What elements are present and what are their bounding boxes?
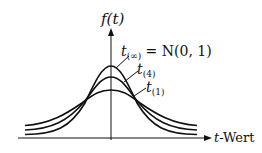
- leader-t1: [134, 88, 146, 96]
- label-t4: t(4): [137, 62, 155, 79]
- leader-t4: [124, 71, 138, 82]
- label-t1: t(1): [146, 80, 164, 97]
- x-axis-label: t-Wert: [214, 131, 254, 144]
- y-axis-label: f(t): [101, 12, 124, 27]
- y-axis-arrow-icon: [108, 28, 114, 36]
- x-axis-arrow-icon: [204, 135, 212, 141]
- label-normal: t(∞) = N(0, 1): [121, 44, 212, 61]
